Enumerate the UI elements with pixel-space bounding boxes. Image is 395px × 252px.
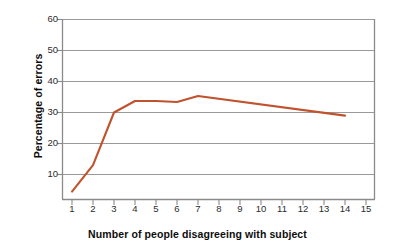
x-axis-label-8: 8 [209, 203, 229, 215]
plot-background [62, 19, 375, 199]
x-axis-label-2: 2 [83, 203, 103, 215]
line-chart-figure: 60 50 40 30 20 10 1 2 3 4 5 6 7 8 9 10 1… [0, 0, 395, 252]
x-axis-label-13: 13 [314, 203, 334, 215]
y-axis-title: Percentage of errors [32, 21, 44, 191]
x-axis-label-12: 12 [293, 203, 313, 215]
x-axis-label-10: 10 [251, 203, 271, 215]
x-axis-title: Number of people disagreeing with subjec… [0, 228, 395, 240]
x-axis-label-1: 1 [62, 203, 82, 215]
x-axis-label-7: 7 [188, 203, 208, 215]
x-axis-label-4: 4 [125, 203, 145, 215]
x-axis-label-14: 14 [335, 203, 355, 215]
x-axis-tick-labels: 1 2 3 4 5 6 7 8 9 10 11 12 13 14 15 [0, 203, 395, 219]
x-axis-label-3: 3 [104, 203, 124, 215]
x-axis-label-5: 5 [146, 203, 166, 215]
x-axis-label-11: 11 [272, 203, 292, 215]
x-axis-label-15: 15 [356, 203, 376, 215]
x-axis-label-6: 6 [167, 203, 187, 215]
x-axis-label-9: 9 [230, 203, 250, 215]
